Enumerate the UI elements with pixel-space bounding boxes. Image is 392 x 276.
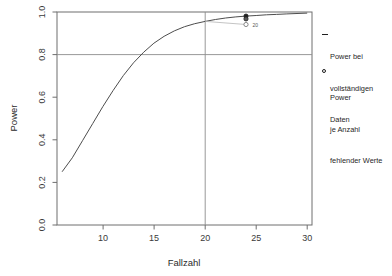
- y-axis-title: Power: [8, 105, 19, 132]
- y-tick-label: 0.0: [37, 219, 47, 232]
- missing-data-point-marker: [244, 17, 248, 21]
- x-tick-label: 20: [200, 233, 210, 243]
- power-curve-chart: 20 10 15 20 25 30 0.0 0.2 0.4 0.6 0.8 1.…: [0, 0, 392, 276]
- legend-entry-line: fehlender Werte: [330, 156, 382, 167]
- legend-entry-missing-values: Power je Anzahl fehlender Werte: [330, 72, 382, 188]
- y-tick-label: 0.2: [37, 176, 47, 189]
- marker-connector-line: [205, 21, 246, 24]
- x-axis-title: Fallzahl: [168, 257, 201, 268]
- missing-data-point-marker: [244, 22, 248, 26]
- x-tick-label: 30: [302, 233, 312, 243]
- y-tick-label: 0.6: [37, 91, 47, 104]
- y-tick-label: 1.0: [37, 6, 47, 19]
- legend-circle-marker-icon: [322, 69, 326, 73]
- legend-entry-line: Power bei: [330, 52, 373, 63]
- missing-data-point-label: 20: [253, 22, 259, 28]
- legend-entry-line: je Anzahl: [330, 125, 382, 136]
- x-tick-label: 10: [98, 233, 108, 243]
- legend-entry-line: Power: [330, 93, 382, 104]
- x-tick-label: 25: [251, 233, 261, 243]
- x-tick-label: 15: [149, 233, 159, 243]
- y-tick-label: 0.4: [37, 134, 47, 147]
- legend-dash-marker-icon: [322, 34, 328, 35]
- power-curve-complete-data: [62, 13, 307, 172]
- y-tick-label: 0.8: [37, 48, 47, 61]
